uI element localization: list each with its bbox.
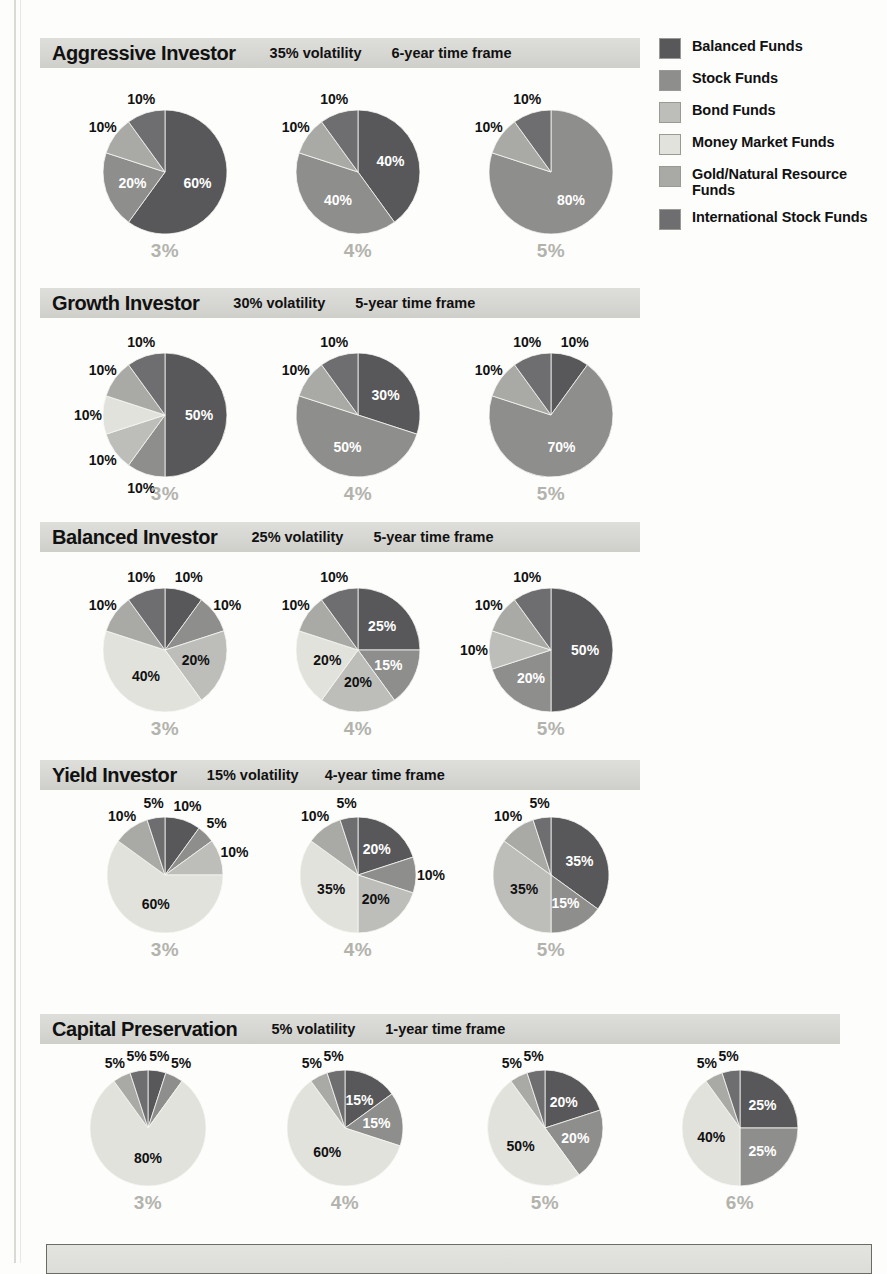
pie-caption: 5% bbox=[489, 718, 613, 740]
pie-caption: 3% bbox=[103, 718, 227, 740]
section-header-band: Yield Investor15% volatility4-year time … bbox=[40, 760, 640, 790]
legend-swatch-money bbox=[659, 134, 681, 155]
section-volatility: 25% volatility bbox=[252, 529, 344, 545]
pie-slice-label: 5% bbox=[143, 796, 163, 810]
pie-chart: 10%70%10%10%5% bbox=[489, 353, 613, 477]
legend-swatch-bond bbox=[659, 102, 681, 123]
pie-chart: 10%5%10%60%10%5%3% bbox=[107, 817, 223, 933]
pie-slice-label: 10% bbox=[513, 92, 541, 106]
pie-chart: 25%25%40%5%5%6% bbox=[682, 1070, 798, 1186]
pie-slice-label: 5% bbox=[336, 796, 356, 810]
legend-item: Stock Funds bbox=[659, 70, 884, 91]
pie-slice-label: 5% bbox=[502, 1056, 522, 1070]
section-title: Balanced Investor bbox=[52, 526, 218, 549]
pie-caption: 5% bbox=[489, 240, 613, 262]
pie-slice-label: 10% bbox=[127, 570, 155, 584]
section-title: Growth Investor bbox=[52, 292, 199, 315]
pie-slice-label: 5% bbox=[718, 1049, 738, 1063]
pie-slice-label: 5% bbox=[529, 796, 549, 810]
pie-chart: 20%10%20%35%10%5%4% bbox=[300, 817, 416, 933]
legend-swatch-balanced bbox=[659, 38, 681, 59]
pie-chart: 35%15%35%10%5%5% bbox=[493, 817, 609, 933]
pie-chart: 40%40%10%10%4% bbox=[296, 110, 420, 234]
legend-item: Money Market Funds bbox=[659, 134, 884, 155]
section-volatility: 15% volatility bbox=[207, 767, 299, 783]
pie-caption: 3% bbox=[103, 483, 227, 505]
pie-chart: 30%50%10%10%4% bbox=[296, 353, 420, 477]
pie-caption: 4% bbox=[296, 240, 420, 262]
bottom-panel bbox=[46, 1244, 872, 1274]
legend-swatch-intl bbox=[659, 209, 681, 230]
pie-slice-label: 10% bbox=[175, 570, 203, 584]
pie-caption: 3% bbox=[103, 240, 227, 262]
legend-label: Stock Funds bbox=[692, 70, 778, 86]
pie-caption: 5% bbox=[489, 483, 613, 505]
pie-caption: 4% bbox=[296, 483, 420, 505]
pie-chart: 10%10%20%40%10%10%3% bbox=[103, 588, 227, 712]
section-time-frame: 6-year time frame bbox=[391, 45, 511, 61]
pie-caption: 3% bbox=[90, 1192, 206, 1214]
pie-slice-label: 5% bbox=[126, 1049, 146, 1063]
pie-slice-label: 10% bbox=[417, 868, 445, 882]
pie-caption: 5% bbox=[493, 939, 609, 961]
section-volatility: 30% volatility bbox=[233, 295, 325, 311]
section-time-frame: 4-year time frame bbox=[325, 767, 445, 783]
pie-slice bbox=[740, 1128, 798, 1186]
section-volatility: 5% volatility bbox=[271, 1021, 355, 1037]
pie-slice-label: 10% bbox=[513, 335, 541, 349]
section-time-frame: 1-year time frame bbox=[385, 1021, 505, 1037]
pie-slice-label: 5% bbox=[302, 1056, 322, 1070]
pie-caption: 4% bbox=[287, 1192, 403, 1214]
pie-slice bbox=[740, 1070, 798, 1128]
legend-label: Money Market Funds bbox=[692, 134, 834, 150]
pie-slice-label: 5% bbox=[323, 1049, 343, 1063]
pie-slice-label: 10% bbox=[127, 335, 155, 349]
pie-chart: 60%20%10%10%3% bbox=[103, 110, 227, 234]
pie-caption: 4% bbox=[300, 939, 416, 961]
legend-swatch-stock bbox=[659, 70, 681, 91]
section-title: Yield Investor bbox=[52, 764, 177, 787]
section-header-band: Balanced Investor25% volatility5-year ti… bbox=[40, 522, 640, 552]
pie-chart: 20%20%50%5%5%5% bbox=[487, 1070, 603, 1186]
legend-label: Gold/Natural Resource Funds bbox=[692, 166, 884, 198]
pie-slice bbox=[165, 353, 227, 477]
pie-slice-label: 10% bbox=[320, 570, 348, 584]
pie-slice-label: 5% bbox=[523, 1049, 543, 1063]
pie-slice-label: 10% bbox=[320, 92, 348, 106]
pie-chart: 25%15%20%20%10%10%4% bbox=[296, 588, 420, 712]
pie-chart: 80%10%10%5% bbox=[489, 110, 613, 234]
legend: Balanced FundsStock FundsBond FundsMoney… bbox=[659, 38, 884, 241]
section-time-frame: 5-year time frame bbox=[355, 295, 475, 311]
pie-chart: 50%20%10%10%10%5% bbox=[489, 588, 613, 712]
section-title: Aggressive Investor bbox=[52, 42, 236, 65]
pie-slice-label: 10% bbox=[320, 335, 348, 349]
pie-slice-label: 10% bbox=[513, 570, 541, 584]
pie-slice-label: 10% bbox=[460, 643, 488, 657]
legend-item: Balanced Funds bbox=[659, 38, 884, 59]
section-header-band: Capital Preservation5% volatility1-year … bbox=[40, 1014, 840, 1044]
pie-caption: 6% bbox=[682, 1192, 798, 1214]
pie-slice-label: 10% bbox=[220, 845, 248, 859]
pie-slice-label: 10% bbox=[127, 92, 155, 106]
pie-slice bbox=[551, 588, 613, 712]
pie-chart: 5%5%80%5%5%3% bbox=[90, 1070, 206, 1186]
legend-item: International Stock Funds bbox=[659, 209, 884, 230]
pie-caption: 4% bbox=[296, 718, 420, 740]
legend-swatch-gold bbox=[659, 166, 681, 187]
pie-slice-label: 5% bbox=[105, 1056, 125, 1070]
pie-slice-label: 5% bbox=[171, 1056, 191, 1070]
pie-slice-label: 10% bbox=[174, 799, 202, 813]
legend-label: International Stock Funds bbox=[692, 209, 868, 225]
pie-slice-label: 5% bbox=[149, 1049, 169, 1063]
pie-caption: 5% bbox=[487, 1192, 603, 1214]
section-time-frame: 5-year time frame bbox=[373, 529, 493, 545]
section-title: Capital Preservation bbox=[52, 1018, 237, 1041]
section-volatility: 35% volatility bbox=[270, 45, 362, 61]
pie-chart: 50%10%10%10%10%10%3% bbox=[103, 353, 227, 477]
legend-item: Gold/Natural Resource Funds bbox=[659, 166, 884, 198]
legend-label: Bond Funds bbox=[692, 102, 776, 118]
pie-slice-label: 5% bbox=[697, 1056, 717, 1070]
section-header-band: Growth Investor30% volatility5-year time… bbox=[40, 288, 640, 318]
pie-chart: 15%15%60%5%5%4% bbox=[287, 1070, 403, 1186]
pie-caption: 3% bbox=[107, 939, 223, 961]
